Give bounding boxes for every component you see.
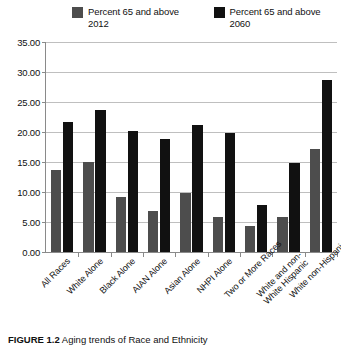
bar [63, 122, 74, 252]
y-tick-label: 35.00 [17, 37, 40, 48]
figure-chart-race-ethnicity-aging: Percent 65 and above 2012 Percent 65 and… [0, 0, 341, 345]
y-tick-label: 30.00 [17, 67, 40, 78]
figure-caption: FIGURE 1.2 Aging trends of Race and Ethn… [8, 334, 338, 345]
bar [192, 125, 203, 252]
chart-legend: Percent 65 and above 2012 Percent 65 and… [72, 6, 337, 36]
plot-area [45, 42, 337, 253]
y-tick-label: 0.00 [22, 247, 40, 258]
bar [225, 133, 236, 252]
legend-swatch-2012 [72, 7, 83, 18]
y-tick-label: 25.00 [17, 97, 40, 108]
bar [180, 193, 191, 252]
bar [95, 110, 106, 252]
caption-text: Aging trends of Race and Ethnicity [60, 334, 208, 345]
bar [257, 205, 268, 252]
bar [310, 149, 321, 252]
y-tick-label: 20.00 [17, 127, 40, 138]
bar [322, 80, 333, 252]
bars-layer [46, 42, 337, 252]
y-tick-label: 5.00 [22, 217, 40, 228]
bar [213, 217, 224, 252]
bar [116, 197, 127, 252]
y-tick-label: 10.00 [17, 187, 40, 198]
bar [128, 131, 139, 252]
legend-label-2060: Percent 65 and above 2060 [230, 6, 338, 29]
caption-label: FIGURE 1.2 [8, 334, 60, 345]
plot-wrapper: 0.005.0010.0015.0020.0025.0030.0035.00 [0, 38, 341, 258]
y-axis-tick-labels: 0.005.0010.0015.0020.0025.0030.0035.00 [0, 38, 40, 253]
y-tick-label: 15.00 [17, 157, 40, 168]
legend-item-2012: Percent 65 and above 2012 [72, 6, 196, 29]
bar [83, 162, 94, 252]
bar [245, 226, 256, 252]
legend-item-2060: Percent 65 and above 2060 [214, 6, 338, 29]
bar [289, 163, 300, 252]
legend-swatch-2060 [214, 7, 225, 18]
legend-label-2012: Percent 65 and above 2012 [88, 6, 196, 29]
bar [160, 139, 171, 252]
bar [51, 170, 62, 252]
x-axis-category-labels: All RacesWhite AloneBlack AloneAIAN Alon… [45, 252, 336, 332]
bar [148, 211, 159, 252]
